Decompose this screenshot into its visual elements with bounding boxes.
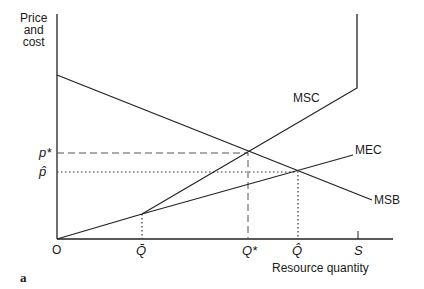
s-label: S xyxy=(354,244,363,257)
origin-label: O xyxy=(52,244,61,256)
curve-msc xyxy=(57,14,357,239)
phat-label: p̂ xyxy=(39,165,46,178)
qhat-label: Q̂ xyxy=(292,244,302,257)
mec-label: MEC xyxy=(355,144,382,156)
guide-pstar-qstar xyxy=(57,153,248,239)
msc-label: MSC xyxy=(293,92,320,104)
pstar-label: p* xyxy=(39,146,51,159)
qstar-label: Q* xyxy=(242,244,257,257)
x-axis-label: Resource quantity xyxy=(272,262,369,274)
y-label-line-3: cost xyxy=(20,36,47,48)
qbar-label: Q̄ xyxy=(136,244,146,257)
panel-label: a xyxy=(20,270,27,286)
curve-msb xyxy=(57,75,372,200)
y-axis-label: Price and cost xyxy=(20,12,47,48)
msb-label: MSB xyxy=(374,194,400,206)
